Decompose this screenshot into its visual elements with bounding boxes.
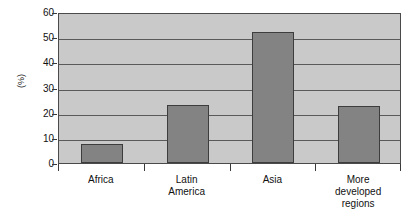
chart-figure: (%) 0102030405060 AfricaLatinAmericaAsia… — [0, 0, 417, 217]
plot-area — [58, 13, 401, 164]
x-axis-tick-label: Moredevelopedregions — [315, 174, 401, 210]
x-axis-tick-labels: AfricaLatinAmericaAsiaMoredevelopedregio… — [58, 174, 401, 217]
bar-slot — [316, 14, 402, 163]
y-axis-tick-label: 50 — [28, 33, 54, 43]
y-axis-tick-label: 30 — [28, 84, 54, 94]
x-axis-tick-label-line: developed — [315, 186, 401, 198]
x-axis-tick-mark — [315, 164, 316, 171]
y-axis-tick-mark — [52, 38, 57, 39]
y-axis-tick-mark — [52, 114, 57, 115]
bar-slot — [231, 14, 317, 163]
x-axis-tick-label: Asia — [230, 174, 316, 186]
bar — [338, 106, 380, 163]
x-axis-tick-mark — [144, 164, 145, 171]
bar — [167, 105, 209, 163]
y-axis-tick-label: 0 — [28, 159, 54, 169]
x-axis-tick-label-line: More — [315, 174, 401, 186]
x-axis-tick-label: LatinAmerica — [144, 174, 230, 198]
y-axis-tick-label: 20 — [28, 109, 54, 119]
x-axis-tick-label-line: Asia — [230, 174, 316, 186]
y-axis-label: (%) — [14, 61, 28, 101]
bar-series — [59, 14, 400, 163]
y-axis-tick-mark — [52, 89, 57, 90]
x-axis-tick-label-line: Latin — [144, 174, 230, 186]
x-axis-tick-mark — [400, 164, 401, 171]
y-axis-tick-label: 10 — [28, 134, 54, 144]
x-axis-tick-label-line: regions — [315, 198, 401, 210]
y-axis-tick-mark — [52, 139, 57, 140]
bar-slot — [145, 14, 231, 163]
y-axis-tick-label: 40 — [28, 58, 54, 68]
x-axis-tick-mark — [230, 164, 231, 171]
y-axis-tick-labels: 0102030405060 — [28, 0, 54, 217]
x-axis-tick-marks — [58, 164, 401, 172]
x-axis-tick-mark — [58, 164, 59, 171]
y-axis-tick-mark — [52, 63, 57, 64]
y-axis-tick-label: 60 — [28, 8, 54, 18]
bar — [252, 32, 294, 163]
x-axis-tick-label: Africa — [58, 174, 144, 186]
bar — [81, 144, 123, 163]
y-axis-tick-mark — [52, 13, 57, 14]
x-axis-tick-label-line: Africa — [58, 174, 144, 186]
y-axis-tick-mark — [52, 164, 57, 165]
bar-slot — [59, 14, 145, 163]
x-axis-tick-label-line: America — [144, 186, 230, 198]
